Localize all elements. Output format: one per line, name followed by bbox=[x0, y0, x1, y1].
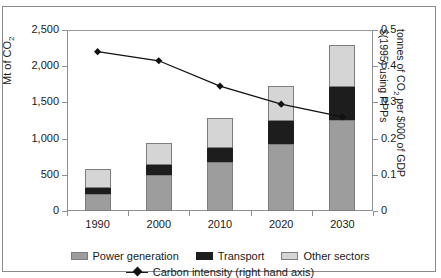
y-axis-right-tick bbox=[373, 102, 378, 103]
y-axis-left-tick-label: 1,000 bbox=[7, 132, 59, 144]
legend-swatch-power-icon bbox=[71, 252, 88, 260]
x-axis-tick bbox=[189, 211, 190, 216]
carbon-intensity-line-series bbox=[67, 30, 373, 211]
legend-diamond-glyph bbox=[132, 266, 142, 276]
y-axis-right-tick-label: 0.4 bbox=[381, 59, 396, 71]
x-axis-tick bbox=[251, 211, 252, 216]
y-axis-right-tick-label: 0.5 bbox=[381, 23, 396, 35]
clipped-title-remnant bbox=[0, 0, 441, 3]
legend-bar-series: Power generationTransportOther sectors bbox=[3, 250, 437, 262]
x-axis-tick-label-1990: 1990 bbox=[68, 218, 128, 230]
legend-item-other: Other sectors bbox=[281, 250, 369, 262]
legend-label-carbon-intensity: Carbon intensity (right hand axis) bbox=[153, 266, 314, 278]
y-axis-left-title-subscript: 2 bbox=[7, 37, 16, 41]
legend-label-transport: Transport bbox=[218, 250, 265, 262]
y-axis-left-tick-label: 500 bbox=[7, 168, 59, 180]
carbon-intensity-marker-2020[interactable] bbox=[278, 101, 285, 108]
y-axis-right-title-line2: $(1995) using PPPs bbox=[378, 29, 390, 189]
x-axis-tick-label-2030: 2030 bbox=[312, 218, 372, 230]
y-axis-left-tick-label: 2,000 bbox=[7, 59, 59, 71]
y-axis-right-title-line1: tonnes of CO2 per $000 of GDP bbox=[390, 29, 407, 189]
carbon-intensity-marker-2000[interactable] bbox=[155, 57, 162, 64]
legend-swatch-other-icon bbox=[281, 252, 298, 260]
y-axis-right-tick bbox=[373, 175, 378, 176]
x-axis-tick bbox=[67, 211, 68, 216]
legend-label-other: Other sectors bbox=[303, 250, 369, 262]
legend-item-power: Power generation bbox=[71, 250, 179, 262]
legend-label-power: Power generation bbox=[93, 250, 179, 262]
y-axis-right-tick bbox=[373, 66, 378, 67]
chart-frame: Mt of CO2 tonnes of CO2 per $000 of GDP … bbox=[2, 6, 436, 272]
y-axis-right-tick bbox=[373, 139, 378, 140]
y-axis-right-tick-label: 0.2 bbox=[381, 132, 396, 144]
carbon-intensity-marker-1990[interactable] bbox=[94, 48, 101, 55]
x-axis-tick bbox=[312, 211, 313, 216]
y-axis-left-tick-label: 0 bbox=[7, 204, 59, 216]
y-axis-right-tick-label: 0 bbox=[381, 204, 387, 216]
legend-item-carbon-intensity: Carbon intensity (right hand axis) bbox=[126, 266, 314, 278]
legend-swatch-transport-icon bbox=[196, 252, 213, 260]
y-axis-right-title: tonnes of CO2 per $000 of GDP $(1995) us… bbox=[378, 29, 407, 189]
y-axis-left-tick-label: 1,500 bbox=[7, 95, 59, 107]
legend-line-series: Carbon intensity (right hand axis) bbox=[3, 266, 437, 278]
legend-item-transport: Transport bbox=[196, 250, 265, 262]
x-axis-tick bbox=[128, 211, 129, 216]
y-axis-right-title-line1-a: tonnes of CO bbox=[395, 29, 407, 91]
line-diamond-marker-icon bbox=[126, 268, 148, 277]
y-axis-right-tick-label: 0.3 bbox=[381, 95, 396, 107]
carbon-intensity-marker-2030[interactable] bbox=[339, 113, 346, 120]
y-axis-right-tick bbox=[373, 30, 378, 31]
carbon-intensity-marker-2010[interactable] bbox=[216, 83, 223, 90]
x-axis-tick-label-2000: 2000 bbox=[129, 218, 189, 230]
y-axis-right-title-line1-b: per $000 of GDP bbox=[395, 95, 407, 177]
plot-area: 05001,0001,5002,0002,500 00.10.20.30.40.… bbox=[67, 30, 373, 211]
x-axis-tick-label-2020: 2020 bbox=[251, 218, 311, 230]
y-axis-left-tick-label: 2,500 bbox=[7, 23, 59, 35]
x-axis-tick bbox=[373, 211, 374, 216]
y-axis-right-tick-label: 0.1 bbox=[381, 168, 396, 180]
x-axis-tick-label-2010: 2010 bbox=[190, 218, 250, 230]
